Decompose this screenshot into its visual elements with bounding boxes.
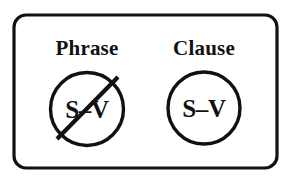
clause-label: Clause: [173, 36, 235, 60]
phrase-label: Phrase: [55, 36, 118, 60]
clause-subject-verb-text: S–V: [182, 95, 226, 122]
figure-canvas: Phrase S–V Clause S–V: [0, 0, 293, 183]
phrase-clause-figure: Phrase S–V Clause S–V: [0, 0, 293, 183]
